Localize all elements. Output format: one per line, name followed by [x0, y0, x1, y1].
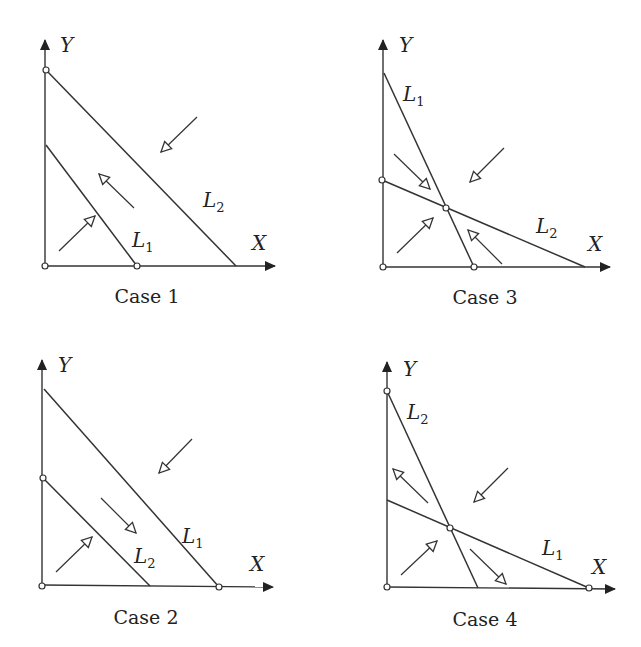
panel-caption: Case 1: [115, 285, 180, 307]
figure-four-cases: L2L1XYCase 1L1L2XYCase 3L1L2XYCase 2L2L1…: [0, 0, 641, 647]
equilibrium-point-marker: [384, 584, 390, 590]
panel-caption: Case 4: [453, 608, 518, 630]
y-axis-label: Y: [399, 33, 414, 57]
equilibrium-point-marker: [40, 475, 46, 481]
panel-case3: L1L2XYCase 3: [379, 33, 610, 308]
phase-diagram-canvas: L2L1XYCase 1L1L2XYCase 3L1L2XYCase 2L2L1…: [0, 0, 641, 647]
equilibrium-point-marker: [39, 583, 45, 589]
panel-caption: Case 2: [114, 606, 179, 628]
line-label-L1: L1: [181, 524, 204, 551]
equilibrium-point-marker: [380, 264, 386, 270]
equilibrium-point-marker: [216, 584, 222, 590]
equilibrium-point-marker: [42, 263, 48, 269]
direction-arrow-icon: [397, 218, 433, 253]
x-axis-label: X: [250, 231, 267, 255]
equilibrium-point-marker: [443, 205, 449, 211]
isocline-line-L1: [387, 500, 589, 588]
x-axis-label: X: [590, 555, 607, 579]
equilibrium-point-marker: [586, 585, 592, 591]
isocline-line-L2: [387, 391, 478, 588]
equilibrium-point-marker: [447, 525, 453, 531]
isocline-line-L1: [44, 389, 219, 587]
direction-arrow-icon: [393, 469, 428, 503]
line-label-L1: L1: [402, 82, 425, 109]
x-axis: [42, 585, 273, 587]
direction-arrow-icon: [474, 468, 508, 502]
direction-arrow-icon: [468, 230, 502, 264]
direction-arrow-icon: [159, 439, 192, 473]
line-label-L2: L2: [535, 214, 558, 241]
direction-arrow-icon: [470, 549, 506, 584]
direction-arrow-icon: [59, 216, 95, 251]
direction-arrow-icon: [401, 541, 437, 575]
isocline-line-L1: [46, 145, 137, 266]
isocline-line-L2: [382, 180, 585, 267]
panel-case1: L2L1XYCase 1: [42, 33, 275, 307]
isocline-line-L1: [384, 73, 474, 267]
line-label-L1: L1: [541, 536, 564, 563]
direction-arrow-icon: [99, 174, 134, 208]
direction-arrow-icon: [161, 117, 197, 152]
direction-arrow-icon: [470, 148, 504, 182]
y-axis-label: Y: [58, 353, 73, 377]
panel-caption: Case 3: [453, 286, 518, 308]
line-label-L2: L2: [202, 188, 225, 215]
direction-arrow-icon: [56, 537, 92, 572]
line-label-L1: L1: [131, 228, 154, 255]
x-axis-label: X: [248, 552, 265, 576]
equilibrium-point-marker: [384, 388, 390, 394]
line-label-L2: L2: [133, 544, 156, 571]
equilibrium-point-marker: [379, 177, 385, 183]
equilibrium-point-marker: [134, 263, 140, 269]
x-axis-label: X: [586, 232, 603, 256]
y-axis-label: Y: [60, 33, 75, 57]
y-axis-label: Y: [403, 357, 418, 381]
panel-case4: L2L1XYCase 4: [384, 357, 615, 630]
equilibrium-point-marker: [43, 67, 49, 73]
x-axis: [387, 587, 615, 589]
direction-arrow-icon: [101, 498, 136, 533]
panel-case2: L1L2XYCase 2: [39, 353, 273, 628]
line-label-L2: L2: [406, 400, 429, 427]
equilibrium-point-marker: [471, 264, 477, 270]
